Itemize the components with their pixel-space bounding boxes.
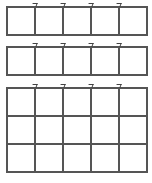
grid-cell <box>7 144 35 172</box>
grid-row <box>7 7 147 35</box>
grid-cell <box>35 7 63 35</box>
grid-cell <box>63 7 91 35</box>
grid-cell <box>119 144 147 172</box>
grid-cell <box>119 88 147 116</box>
grid-cell <box>119 47 147 75</box>
grid-cell <box>7 116 35 144</box>
grid-cell <box>119 7 147 35</box>
grid-table <box>6 6 148 36</box>
grid-cell <box>35 144 63 172</box>
grid-table <box>6 87 148 173</box>
grid-row <box>7 47 147 75</box>
grid-cell <box>35 47 63 75</box>
grid-cell <box>35 116 63 144</box>
grid-row <box>7 88 147 116</box>
grid-cell <box>119 116 147 144</box>
grid-cell <box>63 88 91 116</box>
grid-cell <box>91 144 119 172</box>
grid-cell <box>63 47 91 75</box>
grid-cell <box>35 88 63 116</box>
grid-table <box>6 46 148 76</box>
grid-cell <box>7 88 35 116</box>
grid-cell <box>91 88 119 116</box>
grid-cell <box>63 116 91 144</box>
grid-cell <box>7 7 35 35</box>
grid-row <box>7 116 147 144</box>
grid-cell <box>7 47 35 75</box>
grid-row <box>7 144 147 172</box>
grid-cell <box>63 144 91 172</box>
grid-1 <box>6 6 148 36</box>
grid-2 <box>6 46 148 76</box>
grid-cell <box>91 116 119 144</box>
grid-cell <box>91 47 119 75</box>
grid-cell <box>91 7 119 35</box>
grid-3 <box>6 87 148 173</box>
